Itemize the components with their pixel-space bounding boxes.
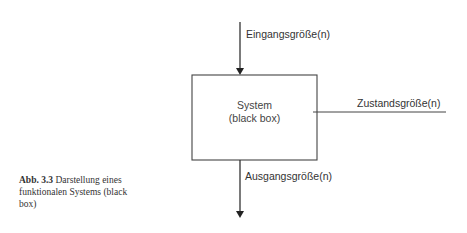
system-title: System bbox=[192, 99, 317, 112]
system-diagram: Eingangsgröße(n) System (black box) Zust… bbox=[0, 0, 467, 233]
input-arrowhead-icon bbox=[236, 68, 244, 75]
system-label: System (black box) bbox=[192, 99, 317, 125]
system-subtitle: (black box) bbox=[192, 112, 317, 125]
state-label: Zustandsgröße(n) bbox=[357, 97, 440, 109]
input-label: Eingangsgröße(n) bbox=[246, 28, 330, 40]
output-arrowhead-icon bbox=[236, 211, 244, 218]
figure-caption: Abb. 3.3 Darstellung eines funktionalen … bbox=[19, 174, 134, 210]
output-label: Ausgangsgröße(n) bbox=[245, 170, 332, 182]
caption-number: Abb. 3.3 bbox=[19, 175, 53, 185]
